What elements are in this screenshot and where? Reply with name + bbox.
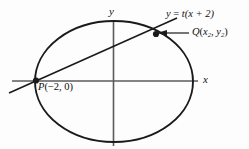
equation-rhs: t(x + 2) — [182, 8, 214, 19]
point-q-label: Q(x2, y2) — [192, 27, 228, 38]
point-p-label: P(−2, 0) — [38, 82, 73, 93]
point-q-coord-y-sub: 2 — [221, 31, 224, 38]
point-p-close-paren: ) — [70, 81, 74, 92]
point-p-coord-x: −2 — [48, 81, 59, 92]
point-q-name: Q — [192, 26, 200, 37]
ellipse-secant-figure: y x y = t(x + 2) Q(x2, y2) P(−2, 0) — [0, 0, 249, 149]
point-q-coord-x-sub: 2 — [208, 31, 211, 38]
figure-canvas — [0, 0, 249, 149]
point-marker-q — [153, 31, 159, 37]
secant-line-equation-label: y = t(x + 2) — [166, 9, 214, 20]
y-axis-label: y — [109, 6, 114, 17]
point-q-close-paren: ) — [224, 26, 228, 37]
x-axis-label: x — [203, 74, 208, 85]
